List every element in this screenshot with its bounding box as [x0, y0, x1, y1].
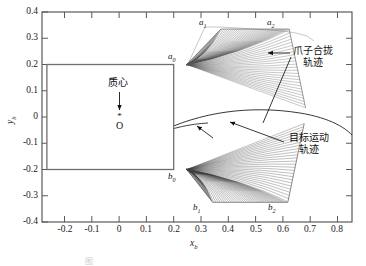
y-axis-title-base: y [5, 120, 15, 124]
corner-label-a0: a0 [168, 52, 176, 63]
corner-label-b0: b0 [168, 172, 176, 183]
y-tick-label: -0.4 [10, 217, 38, 227]
y-axis-title: yb [6, 117, 17, 124]
annotation-claw-closing-line2: 轨迹 [293, 57, 333, 69]
y-tick-label: 0.3 [10, 33, 38, 43]
corner-label-a0-sub: 0 [173, 57, 176, 63]
x-tick-label: 0.3 [189, 225, 213, 235]
y-tick-label: -0.3 [10, 191, 38, 201]
figure-caption: 图 [85, 258, 93, 266]
x-tick-label: 0.1 [134, 225, 158, 235]
corner-label-b1: b1 [193, 203, 201, 214]
corner-label-a1: a1 [199, 18, 207, 29]
y-tick-label: 0.4 [10, 7, 38, 17]
y-tick-label: 0.2 [10, 60, 38, 70]
annotation-claw-closing-trajectory: 爪子合拢 轨迹 [293, 45, 333, 69]
x-tick-label: -0.2 [53, 225, 77, 235]
corner-label-b2-sub: 2 [273, 208, 276, 214]
corner-label-b0-sub: 0 [173, 177, 176, 183]
annotation-center-of-mass: 质心 [108, 78, 128, 88]
y-tick-label: 0.1 [10, 86, 38, 96]
corner-label-b1-sub: 1 [198, 208, 201, 214]
y-tick-label: -0.1 [10, 138, 38, 148]
corner-label-a2-sub: 2 [272, 23, 275, 29]
x-tick-label: 0.8 [325, 225, 349, 235]
x-tick-label: 0.6 [271, 225, 295, 235]
annotation-target-motion-line1: 目标运动 [289, 132, 329, 144]
x-tick-label: 0.7 [298, 225, 322, 235]
x-axis-title-sub: b [194, 243, 197, 250]
origin-label: O [116, 121, 123, 131]
annotation-claw-closing-line1: 爪子合拢 [293, 45, 333, 57]
corner-label-a1-sub: 1 [204, 23, 207, 29]
x-tick-label: 0.5 [244, 225, 268, 235]
annotation-target-motion-trajectory: 目标运动 轨迹 [289, 132, 329, 156]
x-tick-label: 0.2 [162, 225, 186, 235]
x-tick-label: -0.1 [80, 225, 104, 235]
x-axis-title: xb [190, 239, 197, 250]
y-tick-label: -0.2 [10, 165, 38, 175]
corner-label-b2: b2 [268, 203, 276, 214]
annotation-target-motion-line2: 轨迹 [289, 144, 329, 156]
x-tick-label: 0.4 [216, 225, 240, 235]
y-axis-title-sub: b [10, 117, 17, 120]
x-tick-label: 0 [107, 225, 131, 235]
corner-label-a2: a2 [267, 18, 275, 29]
